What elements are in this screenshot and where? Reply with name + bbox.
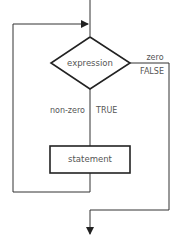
true-branch-label-true: TRUE <box>95 106 117 115</box>
true-branch-label-nonzero: non-zero <box>50 106 85 115</box>
statement-label: statement <box>68 154 112 164</box>
decision-label: expression <box>67 58 113 68</box>
flowchart: expression non-zero TRUE statement zero … <box>0 0 177 242</box>
false-branch-label-false: FALSE <box>140 67 164 76</box>
false-branch-label-zero: zero <box>146 53 163 62</box>
